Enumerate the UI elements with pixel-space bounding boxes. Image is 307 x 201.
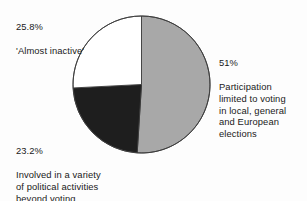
pie-label-involved-percent: 23.2% bbox=[16, 145, 151, 157]
pie-label-inactive: 25.8% 'Almost inactive' bbox=[16, 9, 136, 69]
pie-label-inactive-description: 'Almost inactive' bbox=[16, 45, 136, 57]
pie-label-participation: 51% Participation limited to voting in l… bbox=[219, 45, 307, 152]
pie-label-involved: 23.2% Involved in a variety of political… bbox=[16, 133, 151, 201]
pie-label-inactive-percent: 25.8% bbox=[16, 21, 136, 33]
pie-chart-figure: 25.8% 'Almost inactive' 51% Participatio… bbox=[0, 0, 307, 201]
pie-label-involved-description: Involved in a variety of political activ… bbox=[16, 169, 151, 201]
pie-label-participation-percent: 51% bbox=[219, 57, 307, 69]
pie-label-participation-description: Participation limited to voting in local… bbox=[219, 81, 307, 141]
